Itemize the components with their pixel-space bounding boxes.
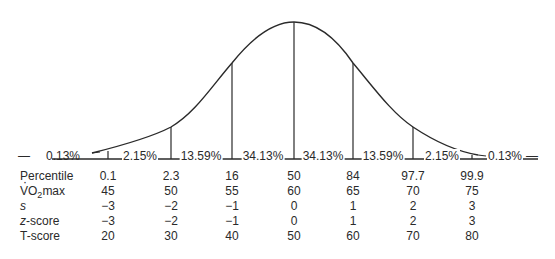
percentile-cell: 50 bbox=[287, 169, 300, 183]
normal-curve bbox=[92, 22, 478, 155]
vo2max-cell: 55 bbox=[225, 184, 238, 198]
row-label-tscore: T-score bbox=[20, 229, 60, 243]
percentile-cell: 99.9 bbox=[460, 169, 483, 183]
percentile-cell: 84 bbox=[346, 169, 359, 183]
row-label-s: s bbox=[20, 199, 26, 213]
s-cell: −1 bbox=[225, 199, 239, 213]
right-tail-dash: — bbox=[526, 149, 538, 163]
segment-percent-2-15-left: 2.15% bbox=[122, 149, 158, 163]
zscore-cell: −2 bbox=[164, 214, 178, 228]
vo2max-cell: 75 bbox=[465, 184, 478, 198]
zscore-cell: −3 bbox=[101, 214, 115, 228]
s-cell: −2 bbox=[164, 199, 178, 213]
segment-percent-34-13-left: 34.13% bbox=[242, 149, 285, 163]
zscore-cell: 1 bbox=[350, 214, 357, 228]
zscore-suffix: -score bbox=[26, 214, 59, 228]
zscore-cell: 3 bbox=[469, 214, 476, 228]
row-label-percentile: Percentile bbox=[20, 169, 73, 183]
row-label-zscore: z-score bbox=[20, 214, 59, 228]
segment-percent-13-59-right: 13.59% bbox=[362, 149, 405, 163]
percentile-cell: 2.3 bbox=[163, 169, 180, 183]
s-cell: −3 bbox=[101, 199, 115, 213]
percentile-cell: 97.7 bbox=[401, 169, 424, 183]
segment-percent-2-15-right: 2.15% bbox=[424, 149, 460, 163]
right-tail-leader bbox=[478, 155, 486, 156]
s-cell: 0 bbox=[291, 199, 298, 213]
tscore-cell: 30 bbox=[164, 229, 177, 243]
segment-percent-right-tail: 0.13% bbox=[487, 149, 523, 163]
tscore-cell: 40 bbox=[225, 229, 238, 243]
vo2max-cell: 70 bbox=[406, 184, 419, 198]
s-cell: 1 bbox=[350, 199, 357, 213]
percentile-cell: 16 bbox=[225, 169, 238, 183]
s-cell: 2 bbox=[410, 199, 417, 213]
vo2-o: O bbox=[28, 184, 37, 198]
tscore-cell: 80 bbox=[465, 229, 478, 243]
zscore-cell: 2 bbox=[410, 214, 417, 228]
s-cell: 3 bbox=[469, 199, 476, 213]
zscore-cell: 0 bbox=[291, 214, 298, 228]
tscore-cell: 20 bbox=[101, 229, 114, 243]
tscore-cell: 50 bbox=[287, 229, 300, 243]
vo2max-cell: 65 bbox=[346, 184, 359, 198]
zscore-cell: −1 bbox=[225, 214, 239, 228]
tscore-cell: 70 bbox=[406, 229, 419, 243]
tscore-cell: 60 bbox=[346, 229, 359, 243]
left-tail-dash: — bbox=[18, 149, 30, 163]
segment-percent-left-tail: 0.13% bbox=[45, 149, 81, 163]
segment-percent-34-13-right: 34.13% bbox=[302, 149, 345, 163]
segment-percent-13-59-left: 13.59% bbox=[180, 149, 223, 163]
vo2-v-dot: V bbox=[20, 184, 28, 198]
percentile-cell: 0.1 bbox=[100, 169, 117, 183]
vo2max-cell: 45 bbox=[101, 184, 114, 198]
vo2-suffix: max bbox=[42, 184, 65, 198]
vo2max-cell: 60 bbox=[287, 184, 300, 198]
vo2max-cell: 50 bbox=[164, 184, 177, 198]
row-label-vo2max: VO2max bbox=[20, 184, 65, 198]
